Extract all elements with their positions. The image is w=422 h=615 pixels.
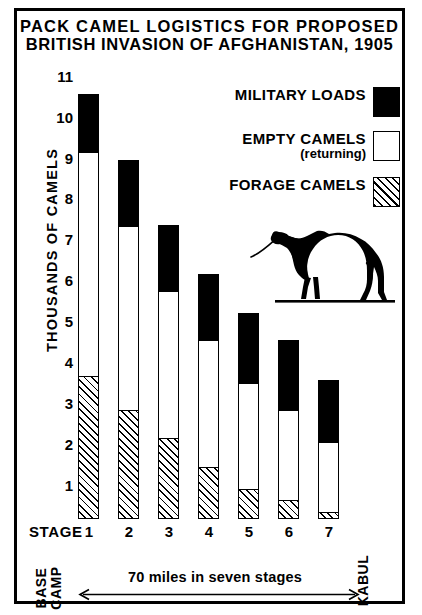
distance-note: 70 miles in seven stages (95, 569, 335, 585)
x-tick-7: 7 (309, 523, 349, 540)
y-tick-11: 11 (27, 69, 73, 84)
y-tick-3: 3 (27, 396, 73, 411)
bar-stage-3-segment-military (159, 226, 178, 291)
base-camp-label-line1: BASE (33, 568, 49, 609)
bar-stage-7[interactable] (318, 380, 339, 519)
legend-label-forage-camels: FORAGE CAMELS (229, 177, 366, 193)
legend-item-forage-camels[interactable]: FORAGE CAMELS (195, 177, 400, 211)
x-tick-4: 4 (189, 523, 229, 540)
bar-stage-2-segment-military (119, 161, 138, 226)
y-axis-title: THOUSANDS OF CAMELS (44, 162, 60, 352)
bar-stage-1-segment-empty (79, 152, 98, 376)
legend-label-empty-camels-sub: (returning) (242, 147, 366, 161)
bar-stage-3-segment-empty (159, 291, 178, 438)
bar-stage-2-segment-empty (119, 226, 138, 410)
x-tick-1: 1 (69, 523, 109, 540)
camel-silhouette-icon (239, 207, 399, 311)
bar-stage-7-segment-empty (319, 442, 338, 512)
black-swatch-icon (373, 87, 400, 117)
bar-stage-4-segment-forage (199, 467, 218, 519)
x-tick-2: 2 (109, 523, 149, 540)
x-tick-6: 6 (269, 523, 309, 540)
bar-stage-1-segment-military (79, 95, 98, 152)
bar-stage-7-segment-forage (319, 512, 338, 519)
bar-stage-3[interactable] (158, 225, 179, 519)
hatched-swatch-icon (373, 177, 400, 207)
bar-stage-4-segment-military (199, 275, 218, 340)
bar-stage-4-segment-empty (199, 340, 218, 467)
legend-label-military-loads: MILITARY LOADS (235, 87, 366, 103)
bar-stage-5-segment-forage (239, 489, 258, 519)
bar-stage-1-segment-forage (79, 376, 98, 519)
bar-stage-2-segment-forage (119, 410, 138, 519)
bar-stage-7-segment-military (319, 381, 338, 442)
legend-label-empty-camels: EMPTY CAMELS (returning) (242, 131, 366, 161)
bar-stage-5-segment-military (239, 314, 258, 383)
base-camp-label: BASE CAMP (34, 552, 64, 615)
distance-arrow-icon (75, 587, 363, 600)
legend-label-empty-camels-main: EMPTY CAMELS (242, 130, 366, 147)
bar-stage-6-segment-military (279, 341, 298, 410)
white-swatch-icon (373, 131, 400, 161)
legend-item-empty-camels[interactable]: EMPTY CAMELS (returning) (195, 131, 400, 165)
bar-stage-1[interactable] (78, 94, 99, 519)
bar-stage-6[interactable] (278, 340, 299, 519)
y-tick-4: 4 (27, 355, 73, 370)
bar-stage-5-segment-empty (239, 383, 258, 489)
bar-stage-2[interactable] (118, 160, 139, 519)
x-tick-3: 3 (149, 523, 189, 540)
x-tick-5: 5 (229, 523, 269, 540)
bar-stage-6-segment-empty (279, 410, 298, 500)
y-tick-2: 2 (27, 437, 73, 452)
chart-frame: PACK CAMEL LOGISTICS FOR PROPOSED BRITIS… (14, 8, 405, 604)
base-camp-label-line2: CAMP (48, 566, 64, 609)
legend-item-military-loads[interactable]: MILITARY LOADS (195, 87, 400, 121)
bar-stage-6-segment-forage (279, 500, 298, 519)
bar-stage-5[interactable] (238, 313, 259, 519)
y-tick-1: 1 (27, 478, 73, 493)
bar-stage-4[interactable] (198, 274, 219, 519)
y-tick-10: 10 (27, 110, 73, 125)
bar-stage-3-segment-forage (159, 438, 178, 519)
kabul-label: KABUL (356, 545, 371, 615)
